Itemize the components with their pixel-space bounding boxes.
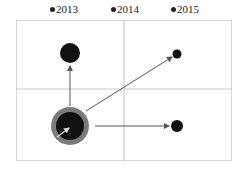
bubble-bottom-right [171,120,183,132]
quadrant-diagram [0,0,242,173]
bubble-top-left [60,43,80,63]
bubble-2013 [56,112,84,140]
bubble-top-right [173,50,182,59]
arrow-diagonal [86,57,172,111]
